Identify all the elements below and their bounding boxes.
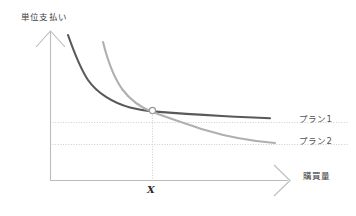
x-axis-label: 購買量 <box>303 172 331 182</box>
x-axis-tick-label: X <box>147 184 155 196</box>
legend-label-plan2: プラン2 <box>299 137 332 147</box>
legend-label-plan1: プラン1 <box>299 115 332 125</box>
y-axis-label: 単位支払い <box>21 13 67 23</box>
chart-container: 単位支払い 購買量 プラン1 プラン2 X <box>0 0 356 216</box>
chart-canvas <box>0 0 356 216</box>
series-line-plan1 <box>68 35 270 118</box>
intersection-marker <box>149 107 155 113</box>
series-line-plan2 <box>103 42 275 143</box>
